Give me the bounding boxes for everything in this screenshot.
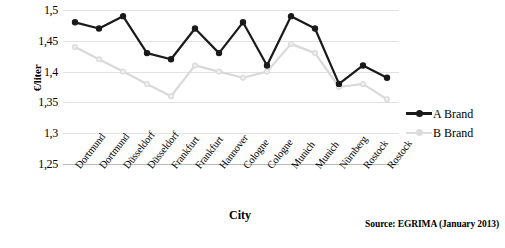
data-point — [72, 20, 77, 25]
data-point — [97, 57, 102, 62]
data-point — [120, 14, 125, 19]
legend-label-b-brand: B Brand — [432, 127, 473, 139]
legend-item-a-brand[interactable]: A Brand — [406, 104, 504, 123]
data-point — [96, 26, 101, 31]
data-point — [216, 51, 221, 56]
data-point — [265, 69, 270, 74]
data-point — [121, 69, 126, 74]
data-point — [192, 26, 197, 31]
y-tick-label: 1,5 — [22, 4, 58, 16]
data-point — [360, 63, 365, 68]
y-tick-label: 1,3 — [22, 127, 58, 139]
data-point — [168, 57, 173, 62]
data-point — [264, 63, 269, 68]
data-point — [361, 82, 366, 87]
chart-legend: A Brand B Brand — [406, 104, 504, 142]
data-point — [288, 14, 293, 19]
data-point — [313, 51, 318, 56]
x-axis-title: City — [180, 208, 300, 223]
y-tick-label: 1,35 — [22, 96, 58, 108]
data-point — [240, 20, 245, 25]
data-point — [385, 97, 390, 102]
y-axis-tick-labels: 1,51,451,41,351,31,25 — [22, 0, 58, 248]
y-tick-label: 1,45 — [22, 35, 58, 47]
legend-marker-b-brand — [406, 127, 432, 138]
data-point — [312, 26, 317, 31]
data-point — [384, 75, 389, 80]
data-point — [73, 45, 78, 50]
line-chart-figure: €/liter 1,51,451,41,351,31,25 DortmundDo… — [0, 0, 505, 248]
data-point — [145, 82, 150, 87]
legend-item-b-brand[interactable]: B Brand — [406, 123, 504, 142]
y-tick-label: 1,25 — [22, 158, 58, 170]
data-point — [336, 81, 341, 86]
legend-label-a-brand: A Brand — [432, 108, 473, 120]
data-point — [289, 41, 294, 46]
data-point — [241, 75, 246, 80]
legend-marker-a-brand — [406, 108, 432, 119]
data-point — [144, 51, 149, 56]
y-tick-label: 1,4 — [22, 66, 58, 78]
data-point — [169, 94, 174, 99]
data-point — [217, 69, 222, 74]
data-point — [193, 63, 198, 68]
source-note: Source: EGRIMA (January 2013) — [365, 219, 499, 229]
